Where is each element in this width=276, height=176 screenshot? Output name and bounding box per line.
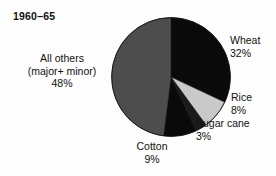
slice-label-cotton: Cotton 9%: [116, 140, 188, 165]
slice-label-wheat-value: 32%: [230, 47, 260, 60]
slice-label-wheat-name: Wheat: [230, 34, 260, 47]
slice-label-sugar-cane: Sugar cane 3%: [196, 117, 250, 142]
pie-slice-all-others-major-minor: [112, 18, 171, 136]
slice-label-cotton-value: 9%: [116, 153, 188, 166]
slice-label-rice: Rice 8%: [231, 91, 252, 116]
slice-label-sugar-cane-value: 3%: [196, 130, 250, 143]
slice-label-all-others: All others (major+ minor) 48%: [14, 52, 110, 90]
slice-label-all-others-line2: (major+ minor): [14, 65, 110, 78]
slice-label-rice-value: 8%: [231, 104, 252, 117]
slice-label-rice-name: Rice: [231, 91, 252, 104]
slice-label-all-others-value: 48%: [14, 77, 110, 90]
slice-label-wheat: Wheat 32%: [230, 34, 260, 59]
pie-chart-figure: 1960–65 All others (major+ minor) 48% Wh…: [0, 0, 276, 176]
slice-label-cotton-name: Cotton: [116, 140, 188, 153]
page-title: 1960–65: [13, 10, 55, 22]
slice-label-sugar-cane-name: Sugar cane: [196, 117, 250, 130]
slice-label-all-others-line1: All others: [14, 52, 110, 65]
